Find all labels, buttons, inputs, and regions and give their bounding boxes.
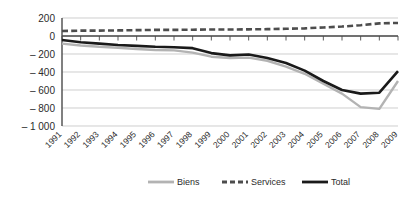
- x-tick-label: 1998: [174, 129, 195, 150]
- legend-label-biens: Biens: [177, 177, 200, 187]
- x-tick-label: 1997: [155, 129, 176, 150]
- x-tick-label: 1994: [99, 129, 120, 150]
- x-tick-label: 2005: [304, 129, 325, 150]
- y-tick-label: – 800: [30, 103, 55, 114]
- x-tick-label: 1999: [192, 129, 213, 150]
- x-tick-label: 1996: [136, 129, 157, 150]
- x-tick-label: 1993: [80, 129, 101, 150]
- y-tick-label: – 400: [30, 67, 55, 78]
- x-axis-labels-group: 1991199219931994199519961997199819992000…: [43, 129, 400, 150]
- x-tick-label: 1991: [43, 129, 64, 150]
- line-chart: 2000– 200– 400– 600– 800– 1 000 19911992…: [0, 0, 416, 198]
- y-tick-label: 0: [49, 31, 55, 42]
- x-tick-label: 2006: [323, 129, 344, 150]
- chart-legend: BiensServicesTotal: [148, 177, 350, 187]
- y-tick-label: – 600: [30, 85, 55, 96]
- x-tick-label: 2007: [342, 129, 363, 150]
- legend-label-total: Total: [331, 177, 350, 187]
- series-line-services: [62, 23, 398, 31]
- x-tick-label: 1992: [62, 129, 83, 150]
- x-tick-label: 2009: [379, 129, 400, 150]
- gridlines-group: [62, 18, 398, 126]
- x-tick-label: 1995: [118, 129, 139, 150]
- x-tick-label: 2003: [267, 129, 288, 150]
- x-tick-label: 2002: [248, 129, 269, 150]
- y-axis-labels-group: 2000– 200– 400– 600– 800– 1 000: [22, 13, 56, 132]
- legend-label-services: Services: [251, 177, 286, 187]
- y-tick-label: – 200: [30, 49, 55, 60]
- series-line-biens: [62, 44, 398, 109]
- x-tick-label: 2004: [286, 129, 307, 150]
- y-tick-label: 200: [38, 13, 55, 24]
- x-tick-label: 2000: [211, 129, 232, 150]
- y-tick-label: – 1 000: [22, 121, 56, 132]
- x-tick-label: 2008: [360, 129, 381, 150]
- chart-container: 2000– 200– 400– 600– 800– 1 000 19911992…: [0, 0, 416, 198]
- x-tick-label: 2001: [230, 129, 251, 150]
